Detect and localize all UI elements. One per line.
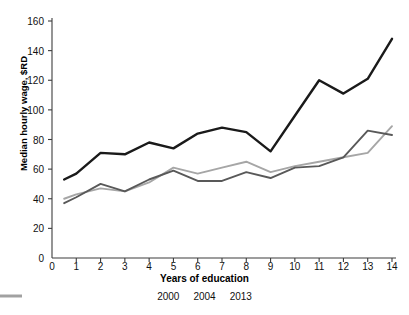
x-axis-tick-label: 8	[235, 261, 257, 272]
legend-item-2004[interactable]: 2004	[193, 291, 215, 302]
x-axis-tick-label: 9	[260, 261, 282, 272]
x-axis-tick-label: 2	[90, 261, 112, 272]
x-axis-title: Years of education	[0, 273, 409, 284]
x-axis-tick-label: 3	[114, 261, 136, 272]
x-axis-tick-label: 0	[41, 261, 63, 272]
legend-label: 2013	[230, 291, 252, 302]
x-axis-tick-label: 13	[357, 261, 379, 272]
x-axis-tick-label: 12	[332, 261, 354, 272]
legend-swatch-2013	[0, 291, 22, 301]
x-axis-tick-label: 7	[211, 261, 233, 272]
legend-item-2000[interactable]: 2000	[157, 291, 179, 302]
x-axis-tick-label: 11	[308, 261, 330, 272]
x-axis-tick-label: 14	[381, 261, 403, 272]
line-chart: Median hourly wage, $RD 0204060801001201…	[0, 0, 409, 315]
x-axis-tick-label: 5	[162, 261, 184, 272]
x-axis-tick-label: 1	[65, 261, 87, 272]
legend-label: 2004	[193, 291, 215, 302]
legend-item-2013[interactable]: 2013	[230, 291, 252, 302]
chart-legend: 200020042013	[0, 291, 409, 302]
legend-label: 2000	[157, 291, 179, 302]
x-axis-tick-label: 10	[284, 261, 306, 272]
x-axis-tick-label: 6	[187, 261, 209, 272]
x-axis-tick-label: 4	[138, 261, 160, 272]
